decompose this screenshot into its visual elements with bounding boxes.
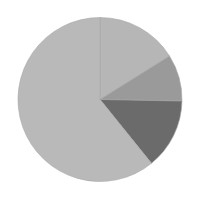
pie-chart-canvas: Slice A: 16.1%Slice B: 9.2%Slice C: 13.9… bbox=[0, 0, 198, 197]
pie-chart: Slice A: 16.1%Slice B: 9.2%Slice C: 13.9… bbox=[0, 0, 198, 197]
pie-slices: Slice A: 16.1%Slice B: 9.2%Slice C: 13.9… bbox=[18, 18, 182, 182]
